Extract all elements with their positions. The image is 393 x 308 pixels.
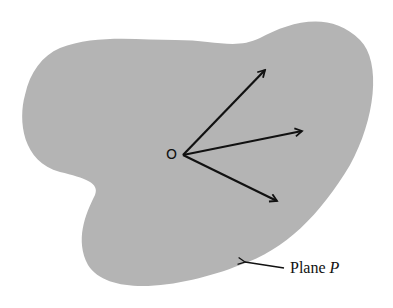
plane-label-variable: P xyxy=(330,259,340,276)
origin-label: O xyxy=(166,146,177,162)
plane-pointer-arrow xyxy=(245,262,284,268)
plane-label: Plane P xyxy=(290,259,339,277)
diagram-canvas: O Plane P xyxy=(0,0,393,308)
plane-label-text: Plane xyxy=(290,259,326,276)
plane-p-region xyxy=(22,22,373,286)
